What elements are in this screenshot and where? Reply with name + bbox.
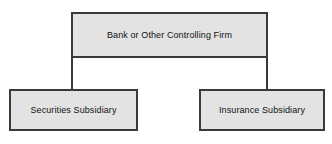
node-parent-firm: Bank or Other Controlling Firm [71,12,268,58]
node-insurance-subsidiary-label: Insurance Subsidiary [219,105,305,116]
connector-parent-to-securities [71,56,73,90]
org-chart-diagram: Bank or Other Controlling Firm Securitie… [0,0,332,144]
node-securities-subsidiary-label: Securities Subsidiary [30,105,116,116]
node-insurance-subsidiary: Insurance Subsidiary [199,89,325,131]
connector-parent-to-insurance [266,56,268,90]
node-securities-subsidiary: Securities Subsidiary [9,89,138,131]
node-parent-firm-label: Bank or Other Controlling Firm [107,30,232,41]
